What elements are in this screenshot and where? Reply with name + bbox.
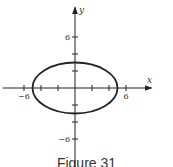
y-axis-label: y bbox=[78, 5, 85, 15]
x-tick-label: −6 bbox=[18, 92, 30, 101]
x-axis-label: x bbox=[147, 75, 152, 85]
x-tick-label: 6 bbox=[123, 92, 128, 101]
ellipse-chart: −666−6xy bbox=[0, 0, 173, 167]
y-tick-label: −6 bbox=[58, 135, 70, 144]
y-tick-label: 6 bbox=[65, 33, 70, 42]
figure-caption: Figure 31 bbox=[0, 155, 173, 167]
